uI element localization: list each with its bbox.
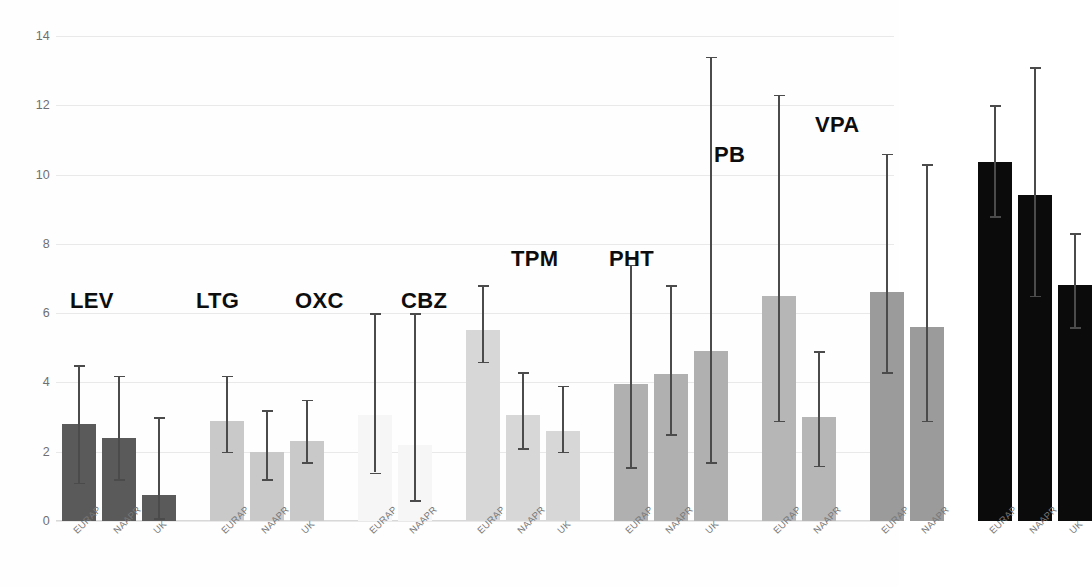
error-bar-cap-lower [882,372,893,374]
error-bar-cap-lower [302,462,313,464]
y-axis-tick-label: 6 [4,306,50,320]
error-bar [778,95,780,421]
group-label-lev: LEV [70,288,114,314]
error-bar [482,285,484,361]
gridline [56,175,894,176]
error-bar-cap-lower [262,479,273,481]
error-bar [926,164,928,420]
error-bar-cap-lower [814,466,825,468]
error-bar-cap-lower [774,421,785,423]
error-bar [710,57,712,462]
error-bar [818,351,820,465]
y-axis-tick-label: 4 [4,375,50,389]
error-bar-cap-upper [154,417,165,419]
error-bar-cap-upper [882,154,893,156]
error-bar-cap-upper [114,376,125,378]
y-axis-tick-label: 8 [4,237,50,251]
error-bar-cap-upper [558,386,569,388]
y-axis-tick-label: 10 [4,168,50,182]
error-bar-cap-upper [922,164,933,166]
error-bar [994,105,996,216]
error-bar [374,313,376,472]
error-bar [266,410,268,479]
error-bar-cap-lower [410,500,421,502]
error-bar [226,376,228,452]
error-bar-cap-lower [922,421,933,423]
error-bar [158,417,160,518]
error-bar [522,372,524,448]
error-bar [670,285,672,434]
y-axis-tick-label: 0 [4,514,50,528]
gridline [56,105,894,106]
gridline [56,521,894,522]
error-bar [414,313,416,500]
y-axis-tick-label: 2 [4,445,50,459]
error-bar-cap-upper [814,351,825,353]
group-label-cbz: CBZ [401,288,447,314]
error-bar-cap-lower [558,452,569,454]
error-bar-cap-lower [74,483,85,485]
error-bar-cap-upper [302,400,313,402]
error-bar [118,376,120,480]
error-bar-cap-lower [666,434,677,436]
group-label-pht: PHT [609,246,654,272]
y-axis-tick-label: 12 [4,98,50,112]
plot-area [56,36,894,521]
gridline [56,36,894,37]
y-axis-tick-label: 14 [4,29,50,43]
error-bar [886,154,888,372]
group-label-ltg: LTG [196,288,239,314]
error-bar [1034,67,1036,296]
error-bar [630,265,632,468]
error-bar-cap-upper [262,410,273,412]
error-bar-cap-lower [222,452,233,454]
group-label-oxc: OXC [295,288,344,314]
error-bar-cap-upper [478,285,489,287]
error-bar-cap-upper [370,313,381,315]
error-bar-cap-upper [774,95,785,97]
error-bar-cap-upper [706,57,717,59]
error-bar-cap-lower [990,216,1001,218]
group-label-vpa: VPA [815,112,860,138]
error-bar-cap-upper [222,376,233,378]
error-bar-cap-lower [114,479,125,481]
error-bar-cap-lower [1030,296,1041,298]
group-label-tpm: TPM [511,246,558,272]
error-bar-cap-lower [478,362,489,364]
error-bar [78,365,80,483]
error-bar-cap-upper [990,105,1001,107]
error-bar-cap-upper [1030,67,1041,69]
error-bar-cap-lower [626,467,637,469]
error-bar-cap-lower [1070,327,1081,329]
error-bar-cap-upper [666,285,677,287]
group-label-pb: PB [714,142,745,168]
error-bar [306,400,308,462]
error-bar-cap-upper [518,372,529,374]
error-bar-cap-lower [370,473,381,475]
error-bar-cap-lower [706,462,717,464]
error-bar [562,386,564,452]
error-bar-cap-lower [518,448,529,450]
error-bar [1074,233,1076,327]
error-bar-cap-upper [74,365,85,367]
gridline [56,244,894,245]
error-bar-cap-upper [1070,233,1081,235]
